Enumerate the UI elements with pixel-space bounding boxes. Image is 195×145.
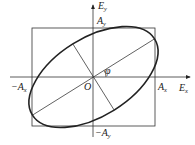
x-axis-label: Ex xyxy=(178,82,188,94)
polarization-ellipse xyxy=(12,6,175,145)
pos-ay-label: Ay xyxy=(96,15,106,27)
pos-ax-label: Ax xyxy=(157,81,167,93)
y-axis-label: Ey xyxy=(97,0,107,12)
origin-label: O xyxy=(84,81,91,92)
neg-ay-label: −Ay xyxy=(95,127,111,139)
angle-phi-label: φ xyxy=(105,65,111,76)
polarization-ellipse-diagram: Ey Ex Ay −Ay Ax −Ax O φ xyxy=(0,0,195,145)
neg-ax-label: −Ax xyxy=(11,81,27,93)
